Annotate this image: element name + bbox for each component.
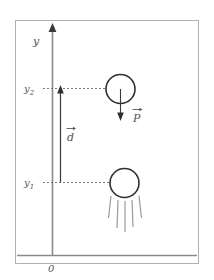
physics-diagram: y 0 y2 y1 d P [0,0,214,280]
displacement-vector-label: d [67,131,74,144]
figure-container: y 0 y2 y1 d P [0,0,214,280]
tick-label-y1-subscript: 1 [30,183,34,191]
y-axis-label: y [32,35,40,48]
origin-label: 0 [48,263,55,274]
weight-vector-label: P [132,112,141,125]
tick-label-y2-subscript: 2 [29,89,35,97]
figure-frame [16,21,199,264]
